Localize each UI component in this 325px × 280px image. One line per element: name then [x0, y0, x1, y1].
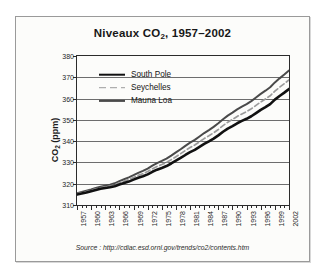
x-axis-tick-mark	[143, 205, 144, 208]
y-axis-label-subscript: 2	[54, 145, 61, 149]
x-axis-tick-mark	[223, 205, 224, 208]
legend-item-label: South Pole	[131, 70, 171, 79]
x-axis-tick-mark	[280, 205, 281, 208]
x-axis-tick-mark	[204, 205, 205, 210]
x-axis-tick-label: 1981	[193, 211, 200, 227]
x-axis-tick-mark	[199, 205, 200, 208]
x-axis-tick-mark	[101, 205, 102, 208]
legend-item[interactable]: Seychelles	[99, 81, 172, 94]
x-axis-tick-mark	[171, 205, 172, 208]
x-axis-tick-mark	[152, 205, 153, 208]
x-axis-tick-label: 1987	[221, 211, 228, 227]
x-axis-tick-label: 1978	[179, 211, 186, 227]
chart-title: Niveaux CO2, 1957–2002	[16, 27, 309, 39]
x-axis-tick-mark	[86, 205, 87, 208]
legend-item-label: Mauna Loa	[131, 96, 172, 105]
legend-item-label: Seychelles	[131, 83, 171, 92]
x-axis-tick-label: 1975	[165, 211, 172, 227]
x-axis-tick-mark	[115, 205, 116, 208]
x-axis-tick-label: 1999	[278, 211, 285, 227]
x-axis-tick-mark	[228, 205, 229, 208]
x-axis-tick-mark	[105, 205, 106, 210]
x-axis-tick-mark	[181, 205, 182, 208]
x-axis-tick-mark	[289, 205, 290, 210]
x-axis-tick-mark	[256, 205, 257, 208]
x-axis-tick-mark	[247, 205, 248, 210]
legend-item[interactable]: Mauna Loa	[99, 94, 172, 107]
x-axis-tick-mark	[119, 205, 120, 210]
chart-legend: South PoleSeychellesMauna Loa	[99, 68, 172, 107]
chart-title-range: , 1957–2002	[165, 27, 231, 39]
y-axis-label: CO2 (ppm)	[50, 95, 60, 185]
x-axis-tick-mark	[96, 205, 97, 208]
x-axis-tick-mark	[162, 205, 163, 210]
x-axis-tick-mark	[195, 205, 196, 208]
x-axis-tick-mark	[110, 205, 111, 208]
x-axis-tick-mark	[190, 205, 191, 210]
x-axis-tick-mark	[242, 205, 243, 208]
x-axis-tick-label: 1969	[137, 211, 144, 227]
legend-swatch-icon	[99, 70, 125, 80]
x-axis-tick-label: 1957	[80, 211, 87, 227]
x-axis-tick-label: 1966	[122, 211, 129, 227]
x-axis-tick-label: 1972	[151, 211, 158, 227]
x-axis-tick-label: 1993	[250, 211, 257, 227]
x-axis-tick-mark	[209, 205, 210, 208]
y-axis-label-unit: (ppm)	[50, 118, 60, 146]
x-axis-tick-mark	[148, 205, 149, 210]
plot-area: 310320330340350360370380 195719601963196…	[76, 55, 290, 206]
x-axis-tick-mark	[157, 205, 158, 208]
x-axis-tick-mark	[284, 205, 285, 208]
x-axis-tick-mark	[261, 205, 262, 210]
chart-figure: Niveaux CO2, 1957–2002 CO2 (ppm) 3103203…	[15, 16, 310, 262]
x-axis-tick-mark	[214, 205, 215, 208]
x-axis-tick-mark	[237, 205, 238, 208]
x-axis-tick-mark	[232, 205, 233, 210]
x-axis-tick-label: 1996	[264, 211, 271, 227]
chart-title-main: Niveaux CO	[94, 27, 161, 39]
legend-item[interactable]: South Pole	[99, 68, 172, 81]
x-axis-tick-mark	[129, 205, 130, 208]
x-axis-tick-label: 1984	[207, 211, 214, 227]
legend-swatch-icon	[99, 83, 125, 93]
x-axis-tick-mark	[77, 205, 78, 210]
x-axis-tick-mark	[82, 205, 83, 208]
x-axis-tick-mark	[251, 205, 252, 208]
x-axis-tick-mark	[218, 205, 219, 210]
y-axis-label-main: CO	[50, 149, 60, 163]
x-axis-tick-mark	[265, 205, 266, 208]
x-axis-tick-mark	[124, 205, 125, 208]
x-axis-tick-label: 2002	[292, 211, 299, 227]
x-axis-tick-label: 1960	[94, 211, 101, 227]
x-axis-tick-mark	[176, 205, 177, 210]
x-axis-tick-mark	[138, 205, 139, 208]
x-axis-tick-mark	[275, 205, 276, 210]
x-axis-tick-mark	[167, 205, 168, 208]
x-axis-tick-mark	[270, 205, 271, 208]
x-axis-tick-label: 1990	[235, 211, 242, 227]
legend-swatch-icon	[99, 96, 125, 106]
x-axis-tick-label: 1963	[108, 211, 115, 227]
source-note: Source : http://cdiac.esd.ornl.gov/trend…	[16, 244, 309, 251]
x-axis-tick-mark	[91, 205, 92, 210]
x-axis-tick-mark	[134, 205, 135, 210]
x-axis-tick-mark	[185, 205, 186, 208]
chart-title-subscript: 2	[160, 32, 165, 41]
